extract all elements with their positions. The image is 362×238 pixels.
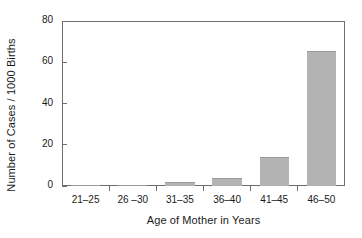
x-tick-label: 36–40 [204,194,251,205]
y-tick-label: 80 [42,14,53,25]
y-tick-mark [62,62,67,63]
x-tick-mark [297,186,298,191]
bar-chart-figure: Number of Cases / 1000 Births 020406080 … [0,0,362,238]
x-tick-label: 46–50 [298,194,345,205]
y-tick-label: 0 [47,179,53,190]
x-tick-label: 31–35 [156,194,203,205]
y-tick-mark [62,186,67,187]
x-tick-mark [203,186,204,191]
bar [307,51,336,186]
x-axis-title: Age of Mother in Years [62,214,345,226]
y-tick-mark [62,21,67,22]
x-tick-label: 21–25 [62,194,109,205]
x-tick-label: 26 –30 [109,194,156,205]
y-axis-title: Number of Cases / 1000 Births [0,22,22,208]
x-tick-mark [156,186,157,191]
x-tick-mark [109,186,110,191]
bar [71,185,100,187]
bar [212,178,241,186]
x-tick-label: 41–45 [251,194,298,205]
bar [165,182,194,186]
y-tick-label: 20 [42,138,53,149]
y-tick-label: 40 [42,97,53,108]
bar [260,157,289,186]
bar [118,185,147,187]
y-tick-mark [62,144,67,145]
y-tick-mark [62,103,67,104]
y-tick-label: 60 [42,55,53,66]
bars-layer [62,21,345,186]
x-tick-mark [250,186,251,191]
